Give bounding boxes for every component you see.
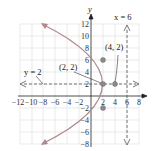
latus-point-top [101, 58, 106, 63]
vertex-point [113, 82, 118, 87]
symmetry-label-leader [36, 76, 43, 84]
focus-point [101, 82, 106, 87]
symmetry-axis-label: y = 2 [24, 67, 42, 77]
svg-text:−4: −4 [63, 98, 72, 107]
y-axis-label: y [87, 4, 92, 14]
svg-text:−2: −2 [80, 104, 89, 113]
directrix-line [124, 25, 130, 145]
svg-text:−6: −6 [51, 98, 60, 107]
svg-text:12: 12 [81, 20, 89, 29]
svg-text:−12: −12 [12, 98, 25, 107]
svg-text:−8: −8 [80, 140, 89, 149]
svg-text:−6: −6 [80, 128, 89, 137]
x-axis-arrow-icon [142, 94, 147, 98]
svg-text:4: 4 [85, 68, 89, 77]
svg-text:4: 4 [113, 98, 117, 107]
svg-text:−10: −10 [25, 98, 38, 107]
svg-text:−8: −8 [39, 98, 48, 107]
svg-text:10: 10 [81, 32, 89, 41]
svg-text:6: 6 [85, 56, 89, 65]
vertex-label: (4, 2) [105, 42, 124, 52]
focus-label: (2, 2) [59, 62, 78, 72]
vertex-label-leader [115, 55, 118, 82]
svg-text:2: 2 [85, 80, 89, 89]
directrix-label: x = 6 [114, 12, 132, 22]
latus-point-bottom [101, 106, 106, 111]
parabola-chart: y −12 −10 −8 −6 −4 −2 2 4 6 8 12 10 8 6 … [0, 0, 157, 151]
y-axis-arrow-icon [89, 14, 93, 19]
y-tick-labels: 12 10 8 6 4 2 −2 −4 −6 −8 [80, 20, 89, 149]
svg-text:8: 8 [137, 98, 141, 107]
x-tick-labels: −12 −10 −8 −6 −4 −2 2 4 6 8 [12, 98, 141, 107]
